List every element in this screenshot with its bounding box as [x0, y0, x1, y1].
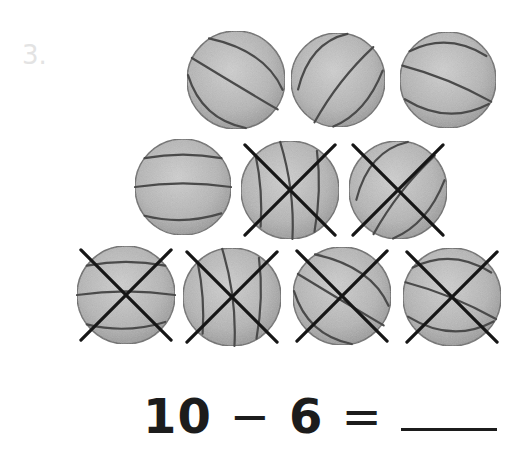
basketball-crossed-out — [403, 248, 501, 346]
subtraction-equation: 10 − 6 = — [143, 388, 497, 444]
basketball-crossed-out — [349, 141, 447, 239]
answer-blank[interactable] — [401, 426, 497, 431]
subtrahend: 6 — [289, 388, 323, 444]
basketball — [291, 33, 385, 127]
equals-sign: = — [341, 388, 382, 444]
minuend: 10 — [143, 388, 212, 444]
basketball — [187, 31, 285, 129]
basketball-crossed-out — [241, 141, 339, 239]
basketball-crossed-out — [77, 246, 175, 344]
basketball-group — [0, 0, 532, 454]
basketball-crossed-out — [293, 247, 391, 345]
basketball — [135, 139, 231, 235]
basketball-crossed-out — [183, 248, 281, 346]
basketball-icon — [291, 33, 385, 127]
minus-sign: − — [230, 388, 271, 444]
basketball — [400, 32, 496, 128]
